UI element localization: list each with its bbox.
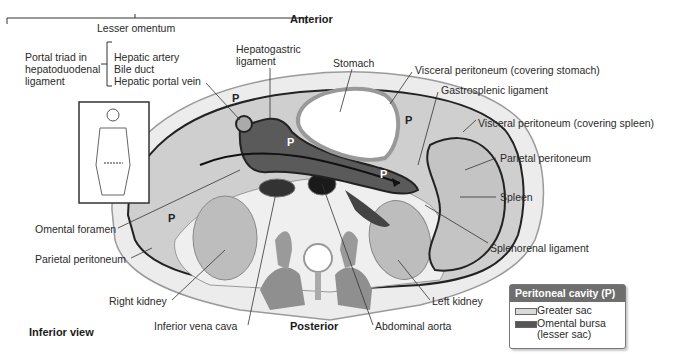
legend-item-lesser-sac: (lesser sac) [510,329,625,340]
label-hepatogastric-1: Hepatogastric [236,43,301,55]
label-right-kidney: Right kidney [109,295,167,307]
label-stomach: Stomach [333,57,374,69]
body-orientation-figure [79,102,149,203]
svg-text:P: P [168,212,175,224]
legend-item-greater-sac: Greater sac [510,305,625,316]
orientation-posterior: Posterior [290,320,338,332]
label-abdominal-aorta: Abdominal aorta [375,320,451,332]
label-splenorenal-ligament: Splenorenal ligament [490,242,589,254]
legend-title: Peritoneal cavity (P) [510,285,625,302]
omental-bursa-swatch [515,321,537,328]
vertebra [304,244,332,272]
label-hepatic-artery: Hepatic artery [114,51,179,63]
label-hepatogastric-2: ligament [236,55,276,67]
label-visceral-peritoneum-spleen: Visceral peritoneum (covering spleen) [478,117,654,129]
svg-text:P: P [405,114,412,126]
label-left-kidney: Left kidney [432,295,483,307]
svg-text:P: P [380,168,387,180]
orientation-anterior: Anterior [290,13,333,25]
label-inferior-vena-cava: Inferior vena cava [154,320,237,332]
label-parietal-peritoneum-left: Parietal peritoneum [35,253,126,265]
right-kidney [193,196,257,280]
label-hepatic-portal-vein: Hepatic portal vein [114,75,201,87]
legend-label-greater-sac: Greater sac [537,304,592,316]
greater-sac-swatch [515,308,537,315]
label-parietal-peritoneum-right: Parietal peritoneum [500,152,591,164]
label-gastrosplenic-ligament: Gastrosplenic ligament [441,84,548,96]
view-label: Inferior view [29,326,94,338]
label-omental-foramen: Omental foramen [35,223,116,235]
label-spleen: Spleen [500,191,533,203]
legend: Peritoneal cavity (P) Greater sac Omenta… [509,284,626,349]
legend-label-lesser-sac: (lesser sac) [537,328,591,340]
label-portal-triad-3: ligament [25,75,65,87]
label-lesser-omentum: Lesser omentum [97,22,175,34]
label-bile-duct: Bile duct [114,63,154,75]
svg-text:P: P [287,136,294,148]
label-visceral-peritoneum-stomach: Visceral peritoneum (covering stomach) [415,64,600,76]
label-portal-triad-2: hepatoduodenal [25,63,100,75]
label-portal-triad-1: Portal triad in [25,51,87,63]
svg-text:P: P [232,92,239,104]
